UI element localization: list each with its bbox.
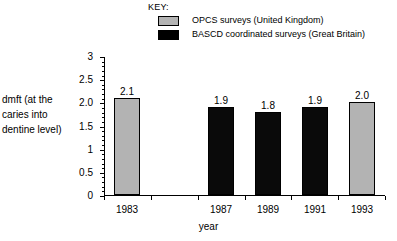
- x-axis-tick: [338, 196, 339, 200]
- x-axis-tick: [385, 196, 386, 200]
- y-axis-minor-tick: [102, 122, 105, 123]
- y-axis-title-line-1: dmft (at the: [2, 92, 80, 107]
- y-axis-minor-tick: [102, 62, 105, 63]
- chart-legend: KEY: OPCS surveys (United Kingdom) BASCD…: [148, 2, 397, 41]
- legend-swatch-bascd: [158, 30, 179, 40]
- bar-value-label: 2.0: [355, 90, 369, 101]
- y-axis-title-line-3: dentine level): [2, 122, 80, 137]
- y-axis-tick: 0.5: [100, 173, 105, 174]
- y-axis-tick: 3: [100, 57, 105, 58]
- y-axis-minor-tick: [102, 187, 105, 188]
- bar-value-label: 1.9: [308, 95, 322, 106]
- y-axis-minor-tick: [102, 66, 105, 67]
- bar-value-label: 1.8: [261, 100, 275, 111]
- y-axis-minor-tick: [102, 164, 105, 165]
- bar-value-label: 1.9: [214, 95, 228, 106]
- x-axis-tick-label: 1991: [304, 204, 326, 215]
- legend-label-opcs: OPCS surveys (United Kingdom): [192, 15, 324, 26]
- legend-title: KEY:: [148, 2, 397, 13]
- y-axis-title-line-2: caries into: [2, 107, 80, 122]
- bar-1989: 1.8: [255, 112, 281, 195]
- y-axis-minor-tick: [102, 145, 105, 146]
- y-axis-minor-tick: [102, 117, 105, 118]
- y-axis-minor-tick: [102, 76, 105, 77]
- legend-label-bascd: BASCD coordinated surveys (Great Britain…: [192, 29, 365, 40]
- x-axis-tick-label: 1989: [257, 204, 279, 215]
- y-axis-minor-tick: [102, 191, 105, 192]
- y-axis-tick: 2.5: [100, 80, 105, 81]
- y-axis-minor-tick: [102, 113, 105, 114]
- y-axis-minor-tick: [102, 108, 105, 109]
- y-axis-minor-tick: [102, 140, 105, 141]
- y-axis-tick-label: 1: [87, 145, 93, 155]
- y-axis-tick-label: 2.5: [79, 75, 93, 85]
- y-axis-tick-label: 0: [87, 191, 93, 201]
- legend-entry-bascd: BASCD coordinated surveys (Great Britain…: [148, 28, 397, 41]
- y-axis-tick: 2.0: [100, 103, 105, 104]
- x-axis-title-text: year: [199, 221, 218, 232]
- y-axis-minor-tick: [102, 71, 105, 72]
- x-axis-tick: [151, 196, 152, 200]
- legend-swatch-opcs: [158, 16, 179, 26]
- bar-1987: 1.9: [208, 107, 234, 195]
- x-axis-tick-label: 1983: [116, 204, 138, 215]
- y-axis-tick-label: 0.5: [79, 168, 93, 178]
- y-axis-minor-tick: [102, 177, 105, 178]
- x-axis-tick: [104, 196, 105, 200]
- y-axis-minor-tick: [102, 182, 105, 183]
- y-axis-minor-tick: [102, 136, 105, 137]
- y-axis-minor-tick: [102, 168, 105, 169]
- x-axis-tick: [245, 196, 246, 200]
- x-axis-title: year: [0, 221, 397, 232]
- bar-1991: 1.9: [302, 107, 328, 195]
- y-axis-minor-tick: [102, 85, 105, 86]
- x-axis-tick-label: 1987: [210, 204, 232, 215]
- y-axis-tick-label: 3: [87, 52, 93, 62]
- x-axis-tick-label: 1993: [351, 204, 373, 215]
- y-axis-tick-label: 1.5: [79, 122, 93, 132]
- bar-1983: 2.1: [114, 98, 140, 195]
- y-axis-minor-tick: [102, 131, 105, 132]
- legend-entry-opcs: OPCS surveys (United Kingdom): [148, 14, 397, 27]
- y-axis-minor-tick: [102, 99, 105, 100]
- x-axis-tick: [291, 196, 292, 200]
- y-axis-tick: 1: [100, 150, 105, 151]
- bar-value-label: 2.1: [120, 86, 134, 97]
- y-axis-tick: 1.5: [100, 127, 105, 128]
- plot-area: 00.511.52.02.53 19831987198919911993 2.1…: [104, 57, 385, 196]
- bar-1993: 2.0: [349, 102, 375, 195]
- y-axis-tick-label: 2.0: [79, 98, 93, 108]
- y-axis-minor-tick: [102, 89, 105, 90]
- y-axis-minor-tick: [102, 94, 105, 95]
- y-axis-minor-tick: [102, 159, 105, 160]
- y-axis-minor-tick: [102, 154, 105, 155]
- x-axis-tick: [198, 196, 199, 200]
- y-axis-title: dmft (at the caries into dentine level): [2, 92, 80, 137]
